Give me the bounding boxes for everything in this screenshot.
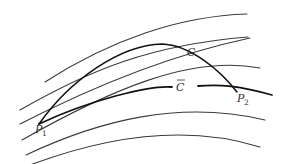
label-p1: P 1 (34, 123, 47, 138)
field-line-6 (30, 135, 260, 164)
field-line-1 (45, 14, 247, 82)
svg-text:2: 2 (244, 98, 249, 107)
field-line-2 (20, 37, 248, 110)
field-line-3 (20, 38, 250, 124)
svg-text:1: 1 (42, 129, 47, 138)
label-cbar: C (176, 80, 185, 94)
curves-diagram: C C P 1 P 2 (0, 0, 284, 164)
svg-text:C: C (176, 81, 185, 94)
label-p2: P 2 (236, 92, 249, 107)
label-c: C (187, 46, 196, 59)
